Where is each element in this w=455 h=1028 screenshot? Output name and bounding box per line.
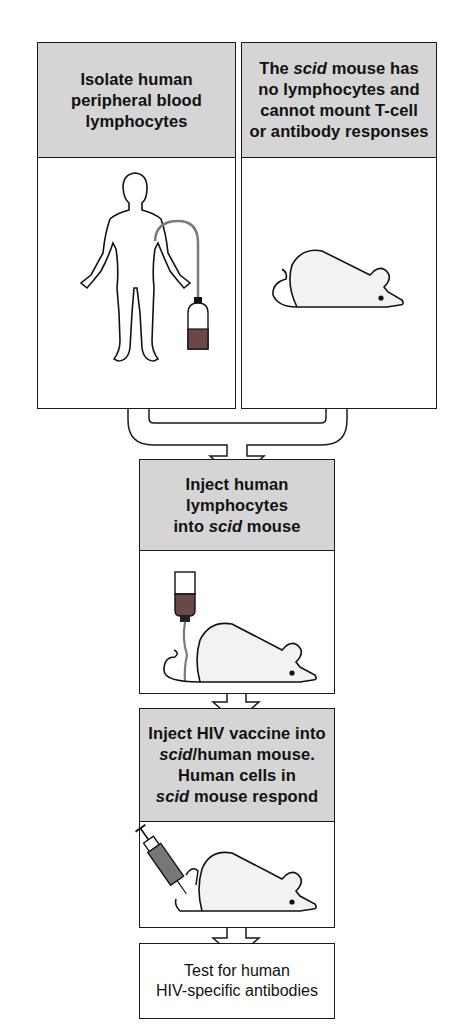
step-inject-hiv-vaccine: Inject HIV vaccine into scid/human mouse… xyxy=(139,708,335,928)
step-isolate-lymphocytes: Isolate human peripheral blood lymphocyt… xyxy=(37,42,236,409)
human-figure-icon xyxy=(38,43,237,410)
step-test-antibodies: Test for human HIV-specific antibodies xyxy=(139,943,335,1019)
step-inject-lymphocytes: Inject human lymphocytes into scid mouse xyxy=(139,459,335,694)
step-test-text: Test for human HIV-specific antibodies xyxy=(156,961,318,1001)
step-scid-mouse: The scid mouse has no lymphocytes and ca… xyxy=(241,42,437,409)
mouse-icon xyxy=(242,43,438,410)
mouse-with-syringe-icon xyxy=(140,709,336,929)
mouse-with-iv-bag-icon xyxy=(140,460,336,695)
text-line: HIV-specific antibodies xyxy=(156,982,318,999)
text-line: Test for human xyxy=(184,962,290,979)
